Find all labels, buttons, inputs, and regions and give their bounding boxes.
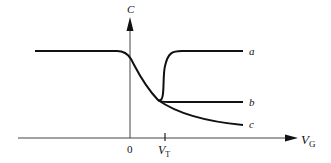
curve-b [158,100,243,102]
curve-a [158,51,243,100]
curve-common-segment [35,51,158,100]
tick-label-zero: 0 [127,143,133,155]
curve-c [158,100,243,125]
curve-c-label: c [249,118,254,130]
x-axis-label: VG [301,132,316,149]
y-axis [127,17,134,138]
y-axis-label: C [127,3,135,15]
y-axis-arrow-icon [127,17,134,31]
x-axis-arrow-icon [285,135,298,142]
curve-b-label: b [249,96,255,108]
tick-label-vt: VT [158,143,170,159]
x-axis [18,135,298,142]
cv-curve-diagram: VG C 0 VT a b c [0,0,331,163]
curve-a-label: a [249,45,255,57]
